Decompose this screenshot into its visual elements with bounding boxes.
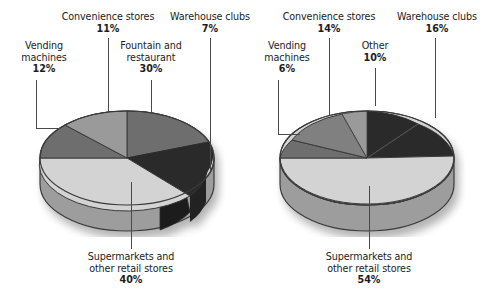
label-warehouse-clubs-name: Warehouse clubs — [170, 11, 250, 22]
label-warehouse-clubs-pct: 16% — [387, 23, 484, 35]
right-pie-chart: Convenience stores 14% Warehouse clubs 1… — [242, 0, 484, 297]
label-convenience-stores: Convenience stores 14% — [259, 11, 399, 34]
pie-chart-figure: Convenience stores 11% Warehouse clubs 7… — [0, 0, 484, 297]
label-convenience-stores-pct: 14% — [259, 23, 399, 35]
leader-supermarkets — [369, 186, 370, 249]
label-vending-machines-pct: 6% — [248, 63, 326, 75]
leader-vending-machines-horizontal — [36, 128, 60, 129]
label-supermarkets-line1: Supermarkets and — [326, 251, 412, 262]
label-convenience-stores-name: Convenience stores — [62, 11, 155, 22]
label-fountain-restaurant-line1: Fountain and — [120, 40, 182, 51]
leader-fountain-restaurant — [151, 80, 152, 113]
leader-vending-machines-vertical — [278, 80, 279, 134]
label-vending-machines: Vending machines 6% — [248, 40, 326, 75]
label-vending-machines: Vending machines 12% — [5, 40, 83, 75]
leader-warehouse-clubs — [210, 38, 211, 171]
left-pie-chart: Convenience stores 11% Warehouse clubs 7… — [0, 0, 242, 297]
label-vending-machines-line1: Vending — [268, 40, 306, 51]
label-supermarkets-line1: Supermarkets and — [88, 251, 174, 262]
label-convenience-stores-name: Convenience stores — [283, 11, 376, 22]
label-supermarkets-pct: 54% — [294, 274, 444, 286]
label-convenience-stores-pct: 11% — [38, 23, 178, 35]
label-supermarkets-line2: other retail stores — [327, 263, 411, 274]
label-warehouse-clubs: Warehouse clubs 16% — [387, 11, 484, 34]
leader-vending-machines-horizontal — [278, 134, 300, 135]
label-vending-machines-line2: machines — [264, 52, 309, 63]
label-other-name: Other — [362, 40, 389, 51]
label-fountain-restaurant-pct: 30% — [96, 63, 206, 75]
leader-warehouse-clubs — [435, 38, 436, 118]
label-supermarkets: Supermarkets and other retail stores 54% — [294, 251, 444, 286]
leader-convenience-stores — [329, 38, 330, 116]
leader-vending-machines-vertical — [36, 80, 37, 128]
label-supermarkets: Supermarkets and other retail stores 40% — [56, 251, 206, 286]
label-vending-machines-pct: 12% — [5, 63, 83, 75]
label-vending-machines-line1: Vending — [25, 40, 63, 51]
label-fountain-restaurant: Fountain and restaurant 30% — [96, 40, 206, 75]
label-other: Other 10% — [340, 40, 410, 63]
leader-supermarkets — [131, 182, 132, 249]
label-other-pct: 10% — [340, 52, 410, 64]
left-pie-graphic — [30, 92, 225, 237]
label-warehouse-clubs-name: Warehouse clubs — [397, 11, 477, 22]
label-supermarkets-pct: 40% — [56, 274, 206, 286]
label-supermarkets-line2: other retail stores — [89, 263, 173, 274]
leader-other — [375, 68, 376, 106]
label-vending-machines-line2: machines — [21, 52, 66, 63]
label-fountain-restaurant-line2: restaurant — [126, 52, 175, 63]
label-convenience-stores: Convenience stores 11% — [38, 11, 178, 34]
